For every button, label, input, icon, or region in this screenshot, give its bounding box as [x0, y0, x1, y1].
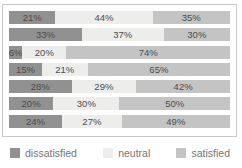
bar-segment-label: 74% — [139, 47, 158, 58]
bar-segment-label: 42% — [174, 81, 193, 92]
bar-segment-satisfied: 65% — [88, 63, 230, 76]
bar-segment-label: 50% — [165, 98, 184, 109]
bar-segment-neutral: 27% — [62, 115, 122, 128]
bar-segment-neutral: 44% — [55, 11, 152, 24]
bar-segment-dissatisfied: 28% — [9, 80, 72, 93]
legend-item-dissatisfied: dissatisfied — [10, 147, 77, 159]
bar-segment-satisfied: 50% — [119, 97, 230, 110]
bar-segment-label: 30% — [77, 98, 96, 109]
bar-segment-neutral: 29% — [72, 80, 137, 93]
bar-segment-satisfied: 42% — [136, 80, 230, 93]
legend-item-neutral: neutral — [103, 147, 150, 159]
bar-row: 15%21%65% — [9, 63, 230, 76]
bar-row: 20%30%50% — [9, 97, 230, 110]
bar-segment-satisfied: 49% — [122, 115, 230, 128]
bar-segment-dissatisfied: 21% — [9, 11, 55, 24]
bar-segment-label: 20% — [35, 47, 54, 58]
bar-segment-dissatisfied: 24% — [9, 115, 62, 128]
bar-segment-label: 20% — [22, 98, 41, 109]
bar-row: 24%27%49% — [9, 115, 230, 128]
bar-segment-neutral: 37% — [82, 28, 164, 41]
bar-segment-label: 24% — [26, 116, 45, 127]
bar-segment-label: 21% — [55, 64, 74, 75]
neutral-swatch-icon — [103, 148, 113, 158]
bar-segment-label: 29% — [94, 81, 113, 92]
bar-segment-dissatisfied: 33% — [9, 28, 82, 41]
dissatisfied-swatch-icon — [10, 148, 20, 158]
satisfied-swatch-icon — [176, 148, 186, 158]
bar-segment-label: 6% — [9, 47, 23, 58]
bar-segment-label: 27% — [82, 116, 101, 127]
bar-segment-satisfied: 30% — [164, 28, 230, 41]
bar-segment-neutral: 21% — [42, 63, 88, 76]
bar-segment-label: 21% — [23, 12, 42, 23]
bar-segment-satisfied: 35% — [153, 11, 230, 24]
chart-plot-area: 21%44%35%33%37%30%6%20%74%15%21%65%28%29… — [2, 4, 237, 137]
bar-segment-dissatisfied: 15% — [9, 63, 42, 76]
bar-segment-label: 28% — [31, 81, 50, 92]
legend-label-satisfied: satisfied — [191, 147, 230, 159]
legend-label-dissatisfied: dissatisfied — [25, 147, 77, 159]
chart-legend: dissatisfied neutral satisfied — [10, 146, 230, 160]
bar-row: 28%29%42% — [9, 80, 230, 93]
bar-segment-label: 65% — [149, 64, 168, 75]
bar-segment-label: 33% — [36, 29, 55, 40]
bar-segment-label: 35% — [182, 12, 201, 23]
bar-segment-dissatisfied: 6% — [9, 46, 22, 59]
bar-segment-label: 30% — [187, 29, 206, 40]
bar-segment-label: 44% — [95, 12, 114, 23]
bar-segment-label: 15% — [16, 64, 35, 75]
legend-item-satisfied: satisfied — [176, 147, 230, 159]
bar-segment-label: 49% — [166, 116, 185, 127]
bar-segment-label: 37% — [113, 29, 132, 40]
bar-row: 21%44%35% — [9, 11, 230, 24]
legend-label-neutral: neutral — [118, 147, 150, 159]
bar-segment-satisfied: 74% — [66, 46, 230, 59]
bar-segment-dissatisfied: 20% — [9, 97, 53, 110]
bar-segment-neutral: 20% — [22, 46, 66, 59]
bar-row: 33%37%30% — [9, 28, 230, 41]
stacked-bar-chart: 21%44%35%33%37%30%6%20%74%15%21%65%28%29… — [0, 0, 242, 168]
bar-row: 6%20%74% — [9, 46, 230, 59]
bar-segment-neutral: 30% — [53, 97, 119, 110]
